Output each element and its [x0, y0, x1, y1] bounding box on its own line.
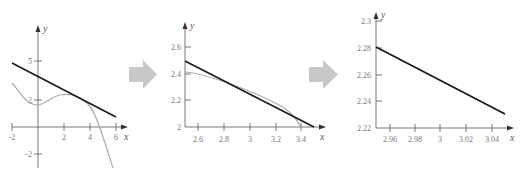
- tangent-line: [376, 47, 505, 114]
- right-arrow-icon: [129, 60, 157, 89]
- x-axis-arrow-icon: [319, 125, 326, 130]
- zoom-arrow-1: [129, 60, 157, 89]
- x-tick-label: 2: [62, 133, 66, 142]
- x-tick-label: 3.4: [296, 135, 306, 144]
- x-axis-label: x: [319, 131, 325, 142]
- function-curve: [185, 72, 301, 127]
- y-tick-label: 2: [177, 123, 181, 132]
- y-tick-label: 5: [28, 57, 32, 66]
- y-tick-label: 2.2: [171, 96, 181, 105]
- y-axis-arrow-icon: [183, 22, 188, 29]
- x-tick-label: 3.2: [271, 135, 281, 144]
- y-tick-label: 2.3: [361, 17, 371, 26]
- x-tick-label: 3.04: [485, 135, 499, 144]
- y-axis-arrow-icon: [36, 25, 41, 32]
- y-tick-label: 2.22: [357, 124, 371, 133]
- panel-1: y x -2 2 4 6 5 2 -2: [9, 23, 129, 168]
- zoom-arrow-2: [309, 60, 338, 89]
- right-arrow-icon: [309, 60, 338, 89]
- x-axis-arrow-icon: [121, 125, 128, 130]
- y-tick-label: 2.26: [357, 71, 371, 80]
- x-tick-label: 6: [114, 133, 118, 142]
- x-axis-label: x: [123, 131, 129, 142]
- y-tick-label: -2: [25, 150, 32, 159]
- tangent-line: [185, 61, 314, 127]
- x-tick-label: 2.96: [383, 135, 397, 144]
- tangent-line: [12, 63, 116, 117]
- y-tick-label: 2.6: [171, 43, 181, 52]
- x-tick-label: 2.8: [219, 135, 229, 144]
- panel-2: y x 2.6 2.8 3 3.2 3.4 2.6 2.4 2.2 2: [171, 20, 326, 144]
- y-axis-label: y: [189, 20, 195, 31]
- x-tick-label: 3: [248, 135, 252, 144]
- y-tick-label: 2.28: [357, 44, 371, 53]
- x-tick-label: 2.98: [408, 135, 422, 144]
- x-axis-arrow-icon: [507, 126, 514, 131]
- y-axis-label: y: [42, 23, 48, 34]
- panel-3: y x 2.96 2.98 3 3.02 3.04 2.3 2.28 2.26 …: [357, 9, 515, 144]
- x-tick-label: 2.6: [193, 135, 203, 144]
- x-tick-label: -2: [9, 133, 16, 142]
- y-tick-label: 2.24: [357, 97, 371, 106]
- x-tick-label: 3.02: [459, 135, 473, 144]
- x-tick-label: 3: [438, 135, 442, 144]
- y-axis-arrow-icon: [374, 12, 379, 19]
- x-axis-label: x: [509, 132, 515, 143]
- y-axis-label: y: [380, 9, 386, 20]
- zoom-sequence-figure: y x -2 2 4 6 5 2 -2 y x: [0, 0, 523, 174]
- x-tick-label: 4: [88, 133, 92, 142]
- y-tick-label: 2.4: [171, 70, 181, 79]
